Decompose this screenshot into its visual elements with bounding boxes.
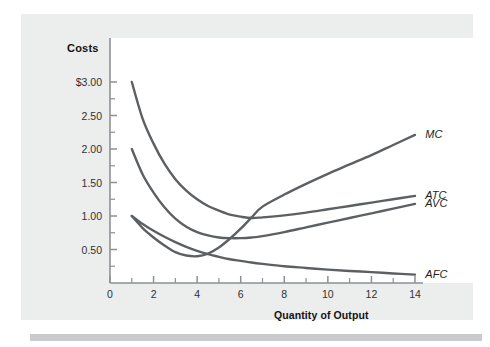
cost-curves-figure: Costs Quantity of Output 0.501.001.502.0…	[0, 0, 490, 347]
axes-group	[110, 38, 423, 283]
y-tick-label: $3.00	[58, 76, 102, 88]
x-tick-label: 10	[322, 288, 334, 300]
y-tick-label: 2.50	[58, 110, 102, 122]
ticks-group	[110, 82, 415, 283]
curve-afc	[132, 216, 415, 275]
curve-label-afc: AFC	[425, 268, 447, 280]
curves-group	[132, 82, 415, 275]
x-tick-label: 14	[409, 288, 421, 300]
curve-mc	[132, 135, 415, 256]
y-axis-title: Costs	[67, 42, 99, 54]
x-tick-label: 8	[281, 288, 287, 300]
curve-atc	[132, 82, 415, 218]
x-tick-label: 12	[366, 288, 378, 300]
x-tick-label: 4	[194, 288, 200, 300]
y-tick-label: 1.00	[58, 210, 102, 222]
x-tick-label: 0	[107, 288, 113, 300]
y-tick-label: 0.50	[58, 244, 102, 256]
curve-avc	[132, 149, 415, 238]
x-tick-label: 6	[238, 288, 244, 300]
y-tick-label: 1.50	[58, 177, 102, 189]
curve-label-mc: MC	[425, 128, 442, 140]
x-axis-title: Quantity of Output	[274, 309, 369, 321]
curve-label-avc: AVC	[425, 197, 447, 209]
x-tick-label: 2	[151, 288, 157, 300]
y-tick-label: 2.00	[58, 143, 102, 155]
